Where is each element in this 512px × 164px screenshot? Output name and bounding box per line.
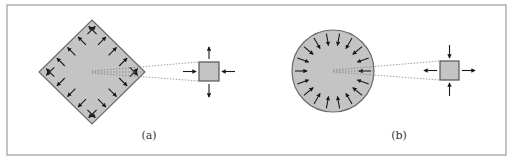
- inset-square-b: [440, 61, 459, 80]
- panel-label-a: (a): [141, 129, 156, 142]
- panel-a: (a): [39, 20, 235, 142]
- panel-b: (b): [292, 30, 475, 142]
- figure-canvas: (a) (b): [0, 0, 512, 164]
- panel-label-b: (b): [391, 129, 407, 142]
- inset-square-a: [199, 62, 219, 81]
